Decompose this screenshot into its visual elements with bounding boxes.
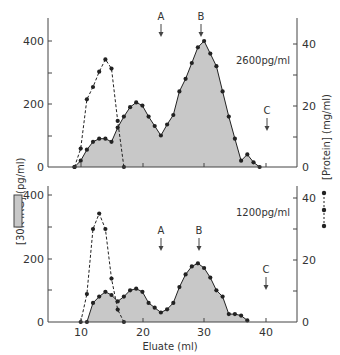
x-axis-label: Eluate (ml) [142, 341, 197, 352]
data-point [177, 89, 181, 93]
data-point [103, 290, 107, 294]
data-point [91, 140, 95, 144]
left-axis-label-group: [30K IRG] (pg/ml) [14, 157, 26, 245]
data-point [109, 67, 113, 71]
data-point [233, 312, 237, 316]
svg-text:B: B [196, 225, 203, 236]
data-point [190, 264, 194, 268]
data-point [97, 295, 101, 299]
top-left-tick-200: 200 [23, 98, 44, 111]
data-point [184, 77, 188, 81]
right-axis-label-group: [Protein] (mg/ml) [321, 94, 332, 228]
data-point [128, 105, 132, 109]
data-point [91, 85, 95, 89]
right-axis-label: [Protein] (mg/ml) [321, 94, 332, 180]
data-point [165, 122, 169, 126]
top-right-tick-20: 20 [302, 100, 316, 113]
data-point [147, 115, 151, 119]
data-point [227, 312, 231, 316]
bottom-right-tick-20: 20 [302, 254, 316, 267]
top-marker-a: A [158, 11, 165, 37]
data-point [208, 52, 212, 56]
irg-legend-swatch [14, 195, 22, 227]
data-point [239, 314, 243, 318]
data-point [159, 310, 163, 314]
data-point [202, 266, 206, 270]
data-point [165, 307, 169, 311]
protein-legend-swatch [322, 191, 326, 228]
bottom-marker-c: C [263, 264, 270, 290]
data-point [171, 301, 175, 305]
data-point [214, 288, 218, 292]
data-point [196, 45, 200, 49]
data-point [221, 295, 225, 299]
bottom-right-tick-40: 40 [302, 192, 316, 205]
data-point [85, 97, 89, 101]
data-point [153, 306, 157, 310]
data-point [140, 290, 144, 294]
x-tick-10: 10 [74, 326, 88, 339]
data-point [147, 301, 151, 305]
data-point [227, 115, 231, 119]
data-point [153, 124, 157, 128]
data-point [208, 276, 212, 280]
bottom-right-tick-0: 0 [302, 316, 309, 329]
data-point [245, 152, 249, 156]
bottom-irg-area [85, 261, 250, 324]
data-point [128, 288, 132, 292]
x-tick-30: 30 [197, 326, 211, 339]
data-point [91, 227, 95, 231]
bottom-left-tick-200: 200 [23, 253, 44, 266]
data-point [109, 140, 113, 144]
top-right-tick-0: 0 [302, 161, 309, 174]
data-point [122, 295, 126, 299]
data-point [109, 293, 113, 297]
bottom-concentration-label: 1200pg/ml [236, 207, 290, 218]
data-point [233, 137, 237, 141]
data-point [140, 104, 144, 108]
data-point [177, 285, 181, 289]
data-point [184, 272, 188, 276]
bottom-marker-b: B [196, 225, 203, 251]
svg-text:C: C [264, 105, 271, 116]
top-irg-area [72, 39, 261, 169]
data-point [85, 292, 89, 296]
top-panel: 400 200 0 40 20 0 2600pg/ml A B [23, 11, 316, 174]
data-point [97, 211, 101, 215]
bottom-left-tick-0: 0 [37, 316, 44, 329]
elution-chart: 400 200 0 40 20 0 2600pg/ml A B [0, 0, 340, 355]
bottom-left-tick-400: 400 [23, 189, 44, 202]
svg-text:A: A [158, 11, 165, 22]
data-point [97, 70, 101, 74]
svg-text:C: C [263, 264, 270, 275]
data-point [190, 61, 194, 65]
data-point [202, 39, 206, 43]
data-point [134, 287, 138, 291]
svg-text:A: A [158, 225, 165, 236]
top-concentration-label: 2600pg/ml [236, 55, 290, 66]
data-point [79, 159, 83, 163]
data-point [79, 147, 83, 151]
top-right-tick-40: 40 [302, 38, 316, 51]
data-point [103, 137, 107, 141]
top-left-tick-0: 0 [37, 161, 44, 174]
bottom-marker-a: A [158, 225, 165, 251]
x-tick-20: 20 [136, 326, 150, 339]
data-point [109, 277, 113, 281]
svg-text:B: B [198, 11, 205, 22]
top-marker-b: B [198, 11, 205, 37]
data-point [159, 133, 163, 137]
top-right-ticks: 40 20 0 [293, 38, 316, 174]
x-tick-40: 40 [259, 326, 273, 339]
bottom-panel: 400 200 0 40 20 0 10 20 30 40 Eluate (ml… [23, 186, 316, 352]
data-point [116, 308, 120, 312]
data-point [103, 227, 107, 231]
data-point [116, 119, 120, 123]
data-point [134, 100, 138, 104]
data-point [221, 89, 225, 93]
data-point [171, 113, 175, 117]
data-point [214, 64, 218, 68]
top-marker-c: C [264, 105, 271, 131]
data-point [91, 301, 95, 305]
data-point [103, 57, 107, 61]
